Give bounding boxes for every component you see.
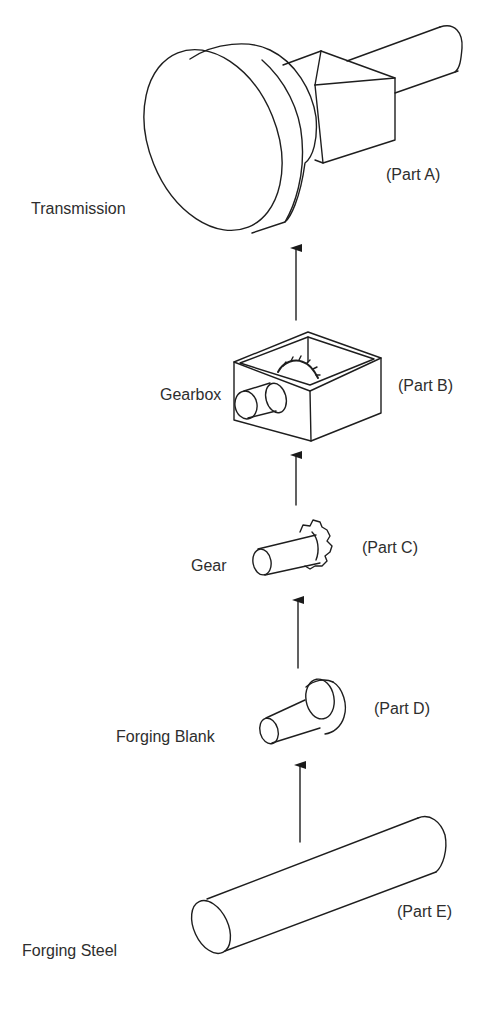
forging-steel-illustration bbox=[184, 817, 446, 960]
label-forging-steel: Forging Steel bbox=[22, 942, 117, 960]
label-forging-blank: Forging Blank bbox=[116, 728, 215, 746]
part-label-e: (Part E) bbox=[397, 903, 452, 921]
part-label-b: (Part B) bbox=[398, 377, 453, 395]
label-gearbox: Gearbox bbox=[160, 386, 221, 404]
gearbox-illustration bbox=[233, 332, 381, 441]
label-transmission: Transmission bbox=[31, 200, 126, 218]
transmission-illustration bbox=[118, 26, 462, 251]
diagram-canvas bbox=[0, 0, 492, 1015]
gear-illustration bbox=[251, 520, 332, 576]
part-label-c: (Part C) bbox=[362, 539, 418, 557]
part-label-d: (Part D) bbox=[374, 700, 430, 718]
part-label-a: (Part A) bbox=[386, 166, 440, 184]
forging-blank-illustration bbox=[257, 677, 345, 746]
label-gear: Gear bbox=[191, 557, 227, 575]
